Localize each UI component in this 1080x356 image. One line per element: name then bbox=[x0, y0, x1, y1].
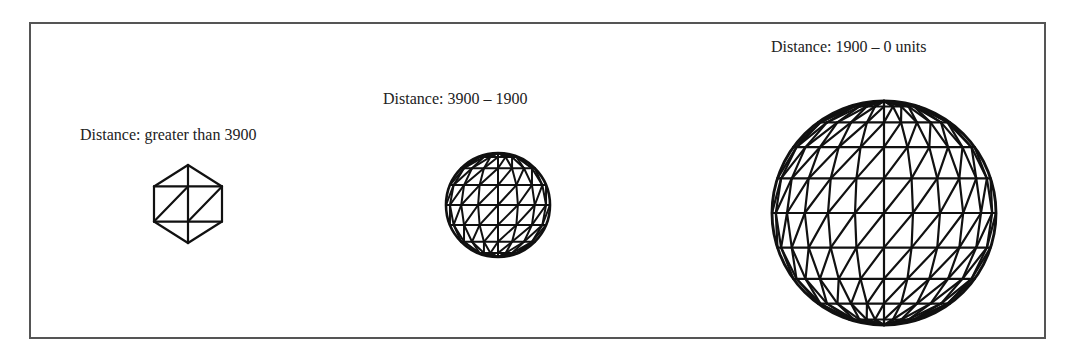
high-detail-sphere-icon bbox=[0, 0, 1080, 356]
